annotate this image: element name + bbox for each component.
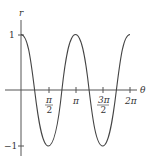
x-label-pi: π [72, 96, 80, 106]
x-label-pi-half-den: 2 [47, 105, 53, 115]
x-label-3pi-half-num: 3π [98, 95, 111, 105]
x-label-3pi-half-den: 2 [101, 105, 107, 115]
polar-function-plot: r θ 1 −1 π 2 π 3π 2 2π [0, 0, 153, 168]
x-label-pi-half-num: π [45, 95, 53, 105]
x-axis-label: θ [140, 85, 146, 95]
y-label-neg1: −1 [4, 141, 17, 151]
y-axis-label: r [19, 8, 24, 18]
y-label-1: 1 [9, 30, 15, 40]
x-label-2pi: 2π [124, 96, 138, 106]
